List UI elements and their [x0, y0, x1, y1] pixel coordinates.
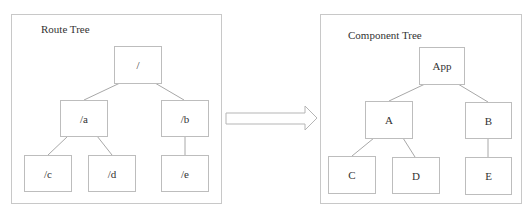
route-node-root: /: [114, 46, 162, 84]
component-node-app: App: [419, 47, 465, 85]
route-node-b: /b: [161, 100, 209, 137]
component-node-c: C: [328, 156, 376, 194]
component-node-a: A: [365, 101, 413, 139]
route-node-c: /c: [24, 155, 72, 192]
route-node-a: /a: [60, 100, 108, 137]
route-node-d: /d: [88, 155, 136, 192]
component-node-d: D: [392, 157, 440, 194]
right-arrow-icon: [226, 106, 317, 130]
route-node-e: /e: [161, 155, 209, 192]
component-tree-title: Component Tree: [348, 29, 422, 41]
component-node-e: E: [465, 157, 512, 195]
route-tree-title: Route Tree: [41, 23, 90, 35]
component-node-b: B: [465, 102, 512, 139]
